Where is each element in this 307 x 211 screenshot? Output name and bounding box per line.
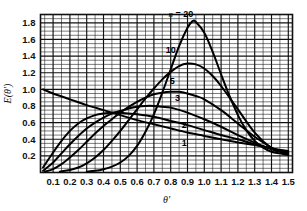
curve-label-2: 2 bbox=[182, 120, 187, 130]
y-axis-tick-labels: 0.20.40.60.81.01.21.41.61.8 bbox=[22, 17, 36, 161]
x-tick-label: 0.6 bbox=[130, 176, 143, 187]
y-tick-label: 1.8 bbox=[22, 17, 35, 28]
y-tick-label: 0.4 bbox=[22, 134, 36, 145]
y-tick-label: 0.8 bbox=[22, 100, 35, 111]
x-tick-label: 1.0 bbox=[198, 176, 211, 187]
x-tick-label: 0.4 bbox=[97, 176, 111, 187]
x-tick-label: 0.7 bbox=[147, 176, 160, 187]
y-tick-label: 0.2 bbox=[22, 150, 35, 161]
y-tick-label: 1.2 bbox=[22, 67, 35, 78]
curve-n-2 bbox=[43, 112, 288, 167]
figure-container: 0.10.20.30.40.50.60.70.80.91.01.11.21.31… bbox=[0, 0, 307, 211]
x-axis-tick-labels: 0.10.20.30.40.50.60.70.80.91.01.11.21.31… bbox=[46, 176, 295, 187]
y-tick-label: 0.6 bbox=[22, 117, 35, 128]
chart-plot: 0.10.20.30.40.50.60.70.80.91.01.11.21.31… bbox=[0, 0, 307, 211]
x-tick-label: 0.8 bbox=[164, 176, 177, 187]
x-axis-title: θ' bbox=[163, 194, 171, 205]
curve-label-3: 3 bbox=[175, 93, 180, 103]
y-axis-title: E(θ') bbox=[2, 83, 14, 104]
curve-label-20: n = 20 bbox=[168, 9, 193, 19]
x-tick-label: 1.1 bbox=[214, 176, 228, 187]
x-tick-label: 0.9 bbox=[181, 176, 194, 187]
curve-annotations: n = 20105321 bbox=[166, 9, 193, 148]
curve-label-5: 5 bbox=[170, 76, 175, 86]
y-tick-label: 1.4 bbox=[22, 50, 36, 61]
x-tick-label: 0.5 bbox=[114, 176, 128, 187]
curve-label-10: 10 bbox=[166, 45, 176, 55]
x-tick-label: 1.2 bbox=[231, 176, 244, 187]
x-tick-label: 0.1 bbox=[46, 176, 60, 187]
curve-label-1: 1 bbox=[182, 138, 187, 148]
x-tick-label: 1.3 bbox=[248, 176, 261, 187]
data-curves bbox=[43, 20, 288, 171]
x-tick-label: 1.5 bbox=[282, 176, 296, 187]
y-tick-label: 1.0 bbox=[22, 84, 35, 95]
x-tick-label: 0.3 bbox=[80, 176, 93, 187]
y-tick-label: 1.6 bbox=[22, 34, 35, 45]
x-tick-label: 1.4 bbox=[265, 176, 279, 187]
x-tick-label: 0.2 bbox=[63, 176, 76, 187]
